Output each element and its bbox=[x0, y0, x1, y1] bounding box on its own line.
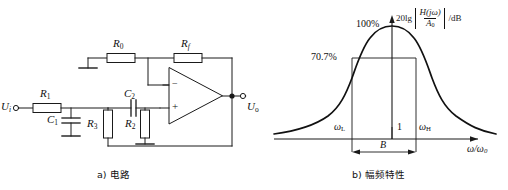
input-terminal-circle bbox=[13, 105, 18, 110]
fraction-denominator: A0 bbox=[424, 18, 437, 29]
circuit-diagram-panel: R0 Rf R1 C2 C1 R3 R2 Ui Uo − + a) 电路 bbox=[0, 0, 256, 190]
output-junction-dot bbox=[229, 93, 234, 98]
label-r1: R1 bbox=[40, 88, 50, 100]
circuit-schematic-svg bbox=[0, 0, 256, 166]
bandwidth-label: B bbox=[380, 140, 386, 150]
amplitude-response-curve bbox=[274, 26, 496, 134]
frequency-response-panel: 20lg H(jω) A0 /dB 100% 70.7% ωL 1 ωH B bbox=[256, 0, 508, 190]
magnitude-bars: H(jω) A0 bbox=[414, 8, 447, 29]
resistor-rf-body bbox=[174, 54, 202, 63]
x-label-omega-high: ωH bbox=[419, 122, 431, 133]
label-r0: R0 bbox=[113, 38, 123, 50]
label-r3: R3 bbox=[87, 118, 97, 130]
y-tick-label-100: 100% bbox=[356, 19, 379, 29]
x-label-center: 1 bbox=[397, 122, 402, 132]
output-terminal-circle bbox=[240, 93, 245, 98]
bandwidth-arrow-left bbox=[352, 149, 360, 154]
y-tick-label-70-7: 70.7% bbox=[311, 52, 337, 62]
resistor-r0-body bbox=[107, 54, 135, 63]
gain-prefix-text: 20lg bbox=[396, 14, 412, 23]
resistor-r1-body bbox=[33, 104, 61, 113]
resistor-r2-body bbox=[141, 110, 150, 138]
opamp-noninverting-sign: + bbox=[172, 101, 178, 112]
figure-root: R0 Rf R1 C2 C1 R3 R2 Ui Uo − + a) 电路 bbox=[0, 0, 508, 190]
magnitude-bar-left bbox=[415, 8, 416, 29]
y-axis-label: 20lg H(jω) A0 /dB bbox=[396, 8, 461, 29]
opamp-triangle bbox=[169, 68, 222, 124]
opamp-inverting-sign: − bbox=[172, 79, 178, 89]
caption-response: b) 幅频特性 bbox=[352, 170, 405, 180]
fraction-numerator: H(jω) bbox=[418, 8, 443, 18]
resistor-r3-body bbox=[104, 110, 113, 138]
magnitude-bar-right bbox=[444, 8, 445, 29]
gain-fraction: H(jω) A0 bbox=[418, 8, 443, 29]
y-axis-arrowhead bbox=[389, 15, 394, 23]
x-axis-arrowhead bbox=[470, 136, 478, 141]
x-label-omega-low: ωL bbox=[334, 122, 345, 133]
x-axis-label: ω/ω0 bbox=[467, 144, 487, 155]
label-r2: R2 bbox=[125, 118, 135, 130]
caption-circuit: a) 电路 bbox=[97, 170, 130, 180]
label-rf: Rf bbox=[181, 38, 190, 50]
label-c2: C2 bbox=[124, 88, 135, 100]
label-c1: C1 bbox=[47, 114, 58, 126]
db-unit-text: /dB bbox=[448, 14, 461, 23]
bandwidth-arrow-right bbox=[408, 149, 416, 154]
label-input-port: Ui bbox=[1, 101, 11, 113]
